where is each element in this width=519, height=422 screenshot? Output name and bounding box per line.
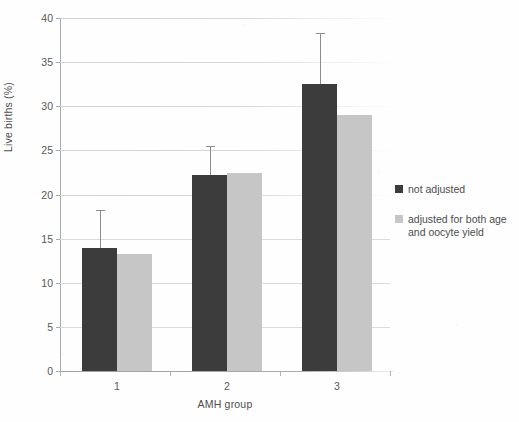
legend-label: adjusted for both age and oocyte yield <box>408 213 515 239</box>
error-bar-stem <box>210 146 211 175</box>
chart-legend: not adjustedadjusted for both age and oo… <box>395 183 515 256</box>
y-tick-label: 25 <box>41 144 53 156</box>
bar <box>117 254 152 371</box>
y-tick-label: 15 <box>41 233 53 245</box>
y-tick-label: 20 <box>41 189 53 201</box>
error-bar-stem <box>100 210 101 249</box>
bar <box>227 173 262 371</box>
x-tick-mark <box>390 371 391 376</box>
legend-label: not adjusted <box>408 183 465 196</box>
bar-chart-figure: Live births (%) 0510152025303540 123 AMH… <box>0 0 519 422</box>
y-tick-mark <box>56 150 60 151</box>
x-axis-title: AMH group <box>60 398 390 410</box>
y-tick-label: 35 <box>41 56 53 68</box>
y-tick-label: 30 <box>41 100 53 112</box>
plot-area: 0510152025303540 123 <box>60 18 390 371</box>
x-tick-mark <box>170 371 171 376</box>
error-bar-cap <box>206 146 215 147</box>
y-tick-label: 40 <box>41 12 53 24</box>
y-tick-mark <box>56 327 60 328</box>
y-tick-mark <box>56 195 60 196</box>
y-tick-mark <box>56 283 60 284</box>
error-bar-stem <box>320 33 321 84</box>
y-tick-mark <box>56 18 60 19</box>
legend-entry[interactable]: not adjusted <box>395 183 515 196</box>
bar <box>337 115 372 371</box>
gridline <box>60 62 390 63</box>
y-tick-mark <box>56 62 60 63</box>
x-tick-label: 3 <box>334 380 340 392</box>
bar <box>192 175 227 371</box>
error-bar-cap <box>96 210 105 211</box>
x-tick-mark <box>60 371 61 376</box>
bar <box>82 248 117 371</box>
y-tick-label: 10 <box>41 277 53 289</box>
y-tick-label: 0 <box>47 365 53 377</box>
x-tick-label: 1 <box>114 380 120 392</box>
error-bar-cap <box>316 33 325 34</box>
y-tick-mark <box>56 239 60 240</box>
bar <box>302 84 337 371</box>
x-axis-line <box>60 371 395 372</box>
y-tick-mark <box>56 106 60 107</box>
legend-entry[interactable]: adjusted for both age and oocyte yield <box>395 213 515 239</box>
gridline <box>60 18 390 19</box>
y-axis-title: Live births (%) <box>2 52 14 182</box>
legend-swatch-icon <box>395 185 403 193</box>
x-tick-label: 2 <box>224 380 230 392</box>
x-tick-mark <box>280 371 281 376</box>
y-tick-label: 5 <box>47 321 53 333</box>
legend-swatch-icon <box>395 215 403 223</box>
gridline <box>60 106 390 107</box>
